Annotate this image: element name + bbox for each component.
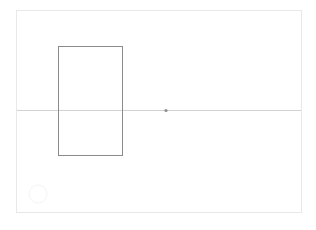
app-root	[0, 0, 316, 230]
artboard[interactable]	[16, 10, 302, 213]
